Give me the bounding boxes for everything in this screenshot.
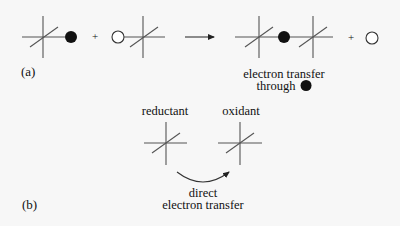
product-open-circle-icon (366, 32, 378, 44)
curved-arrow-icon (177, 172, 229, 182)
oxidant-molecule (218, 122, 262, 165)
plus-sign-1: + (92, 31, 98, 42)
panel-a-label: (a) (21, 65, 35, 78)
reductant-molecule (144, 122, 187, 165)
oxidant-label: oxidant (222, 105, 260, 118)
inline-filled-circle-icon (300, 80, 311, 91)
panel-a-caption-line2: through (257, 80, 312, 93)
bridge-filled-circle-icon (278, 31, 290, 43)
panel-b-caption-line2: electron transfer (162, 199, 244, 212)
panel-b-label: (b) (22, 198, 37, 211)
plus-sign-2: + (348, 32, 354, 43)
electron-transfer-diagram: + + (a) electron transfer through reduct… (0, 0, 400, 226)
panel-a-reactant-2 (124, 16, 165, 58)
reductant-label: reductant (142, 105, 189, 118)
filled-circle-icon (65, 31, 77, 43)
panel-a-reactant-1 (22, 16, 65, 58)
panel-a-caption-through: through (257, 79, 296, 93)
open-circle-icon (112, 31, 124, 43)
